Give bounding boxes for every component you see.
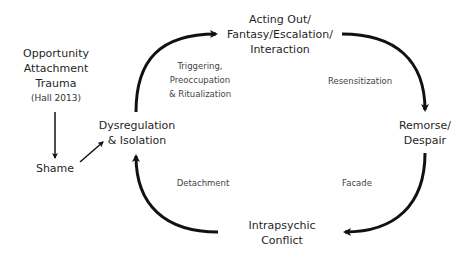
edge-label-text: Facade	[330, 176, 384, 190]
node-origin-line: Trauma	[14, 76, 98, 91]
arrow-acting-out-to-remorse	[342, 34, 425, 110]
node-conflict-line: Intrapsychic	[230, 218, 334, 233]
arrow-remorse-to-conflict	[345, 153, 425, 232]
edge-label-line: & Ritualization	[156, 87, 244, 101]
node-shame-label: Shame	[30, 161, 80, 176]
node-dysregulation-line: Dysregulation	[92, 118, 182, 133]
node-origin-line: Opportunity	[14, 46, 98, 61]
edge-label-detachment: Detachment	[168, 176, 238, 190]
edge-label-text: Resensitization	[318, 74, 402, 88]
node-origin: Opportunity Attachment Trauma (Hall 2013…	[14, 46, 98, 106]
node-remorse-line: Despair	[393, 133, 457, 148]
node-conflict-line: Conflict	[230, 233, 334, 248]
node-acting-out-line: Fantasy/Escalation/	[220, 27, 340, 42]
edge-label-text: Detachment	[168, 176, 238, 190]
edge-label-line: Triggering,	[156, 59, 244, 73]
node-remorse: Remorse/ Despair	[393, 118, 457, 148]
node-dysregulation: Dysregulation & Isolation	[92, 118, 182, 148]
node-conflict: Intrapsychic Conflict	[230, 218, 334, 248]
node-origin-citation: (Hall 2013)	[14, 91, 98, 106]
arrow-conflict-to-dysregulation	[136, 156, 218, 232]
edge-label-line: Preoccupation	[156, 73, 244, 87]
node-dysregulation-line: & Isolation	[92, 133, 182, 148]
node-acting-out: Acting Out/ Fantasy/Escalation/ Interact…	[220, 12, 340, 57]
node-acting-out-line: Interaction	[220, 42, 340, 57]
node-origin-line: Attachment	[14, 61, 98, 76]
node-acting-out-line: Acting Out/	[220, 12, 340, 27]
edge-label-resensitization: Resensitization	[318, 74, 402, 88]
edge-label-facade: Facade	[330, 176, 384, 190]
node-remorse-line: Remorse/	[393, 118, 457, 133]
node-shame: Shame	[30, 161, 80, 176]
edge-label-triggering: Triggering, Preoccupation & Ritualizatio…	[156, 59, 244, 101]
